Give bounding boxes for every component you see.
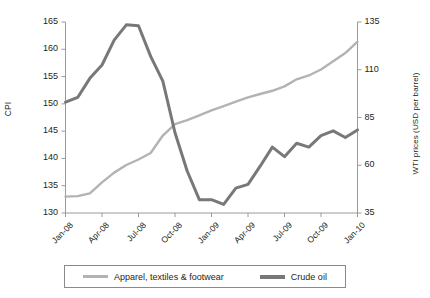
legend-label-apparel: Apparel, textiles & footwear xyxy=(114,272,224,282)
legend-item-crude-oil: Crude oil xyxy=(260,272,327,282)
chart-container: CPI WTI prices (USD per barrel) 13013514… xyxy=(0,0,430,298)
plot-area xyxy=(0,0,430,298)
series-group xyxy=(66,25,358,205)
legend-label-crude-oil: Crude oil xyxy=(291,272,327,282)
chart-legend: Apparel, textiles & footwear Crude oil xyxy=(64,265,346,288)
legend-line-swatch-crude-oil xyxy=(260,275,285,279)
legend-line-swatch-apparel xyxy=(83,275,108,278)
axes-group xyxy=(62,22,362,217)
legend-item-apparel: Apparel, textiles & footwear xyxy=(83,272,224,282)
